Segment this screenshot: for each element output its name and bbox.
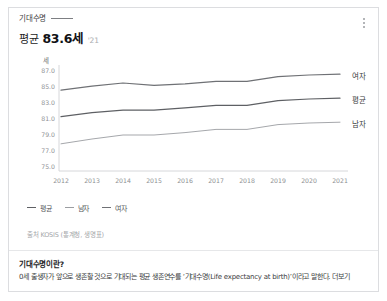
kebab-dot	[363, 22, 365, 24]
x-tick-label: 2015	[146, 177, 162, 184]
kebab-dot	[363, 18, 365, 20]
life-expectancy-card: 기대수명 평균 83.6세 '21 세 87.085.083.081.079.0…	[8, 7, 379, 292]
legend-item-0[interactable]: 평균	[27, 203, 52, 213]
x-tick-label: 2021	[332, 177, 348, 184]
y-tick-label: 79.0	[41, 131, 55, 138]
kebab-dot	[363, 26, 365, 28]
chart-area: 세 87.085.083.081.079.077.075.02012201320…	[15, 55, 372, 201]
y-tick-label: 83.0	[41, 99, 55, 106]
x-tick-label: 2014	[115, 177, 131, 184]
summary-year: '21	[88, 36, 99, 45]
card-title-row: 기대수명	[19, 15, 368, 23]
definition-note: 기대수명이란? 0세 출생자가 앞으로 생존할 것으로 기대되는 평균 생존연수…	[9, 251, 378, 283]
legend-item-1[interactable]: 남자	[65, 203, 90, 213]
x-tick-label: 2012	[53, 177, 69, 184]
legend-swatch-icon	[65, 207, 74, 209]
y-tick-label: 75.0	[41, 163, 55, 170]
line-chart: 87.085.083.081.079.077.075.0201220132014…	[15, 63, 374, 193]
kebab-menu-icon[interactable]	[359, 16, 369, 30]
series-line-평균	[61, 98, 340, 116]
y-tick-label: 81.0	[41, 115, 55, 122]
legend-swatch-icon	[102, 207, 111, 209]
x-tick-label: 2019	[270, 177, 286, 184]
more-link[interactable]: 더보기	[332, 273, 349, 281]
chart-source: 출처 KOSIS (통계청, 생명표)	[27, 229, 378, 239]
legend-swatch-icon	[27, 207, 36, 209]
x-tick-label: 2020	[301, 177, 317, 184]
x-tick-label: 2013	[84, 177, 100, 184]
summary-value: 83.6세	[42, 28, 83, 47]
card-header: 기대수명 평균 83.6세 '21	[9, 8, 378, 47]
summary-prefix: 평균	[19, 30, 38, 46]
y-tick-label: 87.0	[41, 67, 55, 74]
summary-row: 평균 83.6세 '21	[19, 28, 368, 47]
x-tick-label: 2018	[239, 177, 255, 184]
x-tick-label: 2017	[208, 177, 224, 184]
note-body-text: 0세 출생자가 앞으로 생존할 것으로 기대되는 평균 생존연수를 ‘기대수명(…	[19, 273, 330, 281]
series-end-label-average: 평균	[352, 94, 366, 105]
series-end-label-female: 여자	[352, 70, 366, 81]
legend-label: 여자	[115, 203, 127, 213]
x-tick-label: 2016	[177, 177, 193, 184]
title-rule	[51, 18, 73, 19]
y-tick-label: 77.0	[41, 147, 55, 154]
series-line-남자	[61, 122, 340, 144]
legend-item-2[interactable]: 여자	[102, 203, 127, 213]
chart-legend: 평균남자여자	[27, 203, 378, 213]
series-end-label-male: 남자	[352, 118, 366, 129]
card-title: 기대수명	[19, 15, 46, 23]
series-line-여자	[61, 74, 340, 90]
legend-label: 평균	[40, 203, 52, 213]
note-body: 0세 출생자가 앞으로 생존할 것으로 기대되는 평균 생존연수를 ‘기대수명(…	[19, 272, 368, 283]
legend-label: 남자	[78, 203, 90, 213]
y-tick-label: 85.0	[41, 83, 55, 90]
note-heading: 기대수명이란?	[19, 258, 368, 269]
